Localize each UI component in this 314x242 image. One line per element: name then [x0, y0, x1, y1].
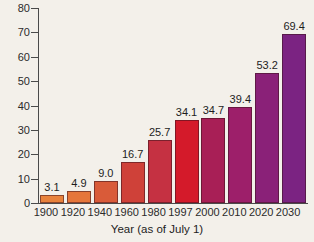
x-axis-tick-label: 2030 [270, 206, 306, 218]
y-axis-tick [31, 57, 39, 58]
bar-value-label: 25.7 [149, 127, 170, 138]
bar [228, 107, 252, 203]
bar-value-label: 16.7 [122, 149, 143, 160]
bar-group: 25.7 [148, 8, 172, 203]
y-axis-tick [31, 154, 39, 155]
y-axis-tick [31, 106, 39, 107]
bar-group: 16.7 [121, 8, 145, 203]
bar-value-label: 3.1 [44, 182, 59, 193]
bar-group: 39.4 [228, 8, 252, 203]
bar-value-label: 9.0 [98, 168, 113, 179]
y-axis-tick [31, 32, 39, 33]
y-axis-tick-label: 0 [0, 198, 30, 209]
y-axis-tick [31, 179, 39, 180]
bar-value-label: 69.4 [283, 21, 304, 32]
bar-value-label: 53.2 [256, 60, 277, 71]
bar-group: 34.7 [201, 8, 225, 203]
bar [40, 195, 64, 203]
y-axis-tick-label: 80 [0, 3, 30, 14]
bar [201, 118, 225, 203]
bar-group: 69.4 [282, 8, 306, 203]
bar [255, 73, 279, 203]
bar-group: 3.1 [40, 8, 64, 203]
bar [175, 120, 199, 203]
bars-container: 3.14.99.016.725.734.134.739.453.269.4 [39, 8, 308, 203]
x-axis-tick-labels: 1900192019401960198019972000201020202030 [39, 206, 308, 220]
bar-group: 9.0 [94, 8, 118, 203]
bar-value-label: 34.1 [176, 107, 197, 118]
x-axis-title: Year (as of July 1) [0, 223, 314, 235]
y-axis-tick-label: 70 [0, 27, 30, 38]
bar-group: 53.2 [255, 8, 279, 203]
bar-value-label: 4.9 [71, 178, 86, 189]
bar-chart: 01020304050607080 3.14.99.016.725.734.13… [0, 0, 314, 242]
bar [148, 140, 172, 203]
y-axis-tick-label: 20 [0, 149, 30, 160]
y-axis-tick-label: 30 [0, 124, 30, 135]
x-axis-line [38, 203, 308, 204]
bar [121, 162, 145, 203]
y-axis-tick [31, 130, 39, 131]
y-axis-tick-label: 60 [0, 51, 30, 62]
bar-group: 4.9 [67, 8, 91, 203]
bar-value-label: 34.7 [203, 105, 224, 116]
bar [282, 34, 306, 203]
bar [94, 181, 118, 203]
bar-group: 34.1 [175, 8, 199, 203]
bar-value-label: 39.4 [230, 94, 251, 105]
y-axis-tick-label: 10 [0, 173, 30, 184]
y-axis-tick [31, 81, 39, 82]
y-axis-tick-label: 50 [0, 76, 30, 87]
y-axis-tick [31, 203, 39, 204]
y-axis-tick [31, 8, 39, 9]
bar [67, 191, 91, 203]
y-axis-tick-label: 40 [0, 100, 30, 111]
